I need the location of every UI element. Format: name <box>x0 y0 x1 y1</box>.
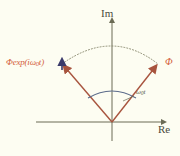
diagram-canvas <box>0 0 180 156</box>
initial-phasor-vector <box>112 66 156 122</box>
rotated-phasor-vector <box>64 66 112 122</box>
rotation-path-arc <box>62 46 158 64</box>
phasor-diagram: Im Re Φ Φexp(iω0t) ω0t <box>0 0 180 156</box>
